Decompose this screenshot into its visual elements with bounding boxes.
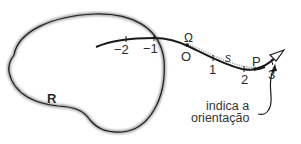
tick-label-neg1: −1 bbox=[143, 41, 158, 56]
diagram-canvas: R −2 −1 O 1 2 3 Ω s P indica a orientaçã… bbox=[0, 0, 301, 144]
arc-length-s-label: s bbox=[225, 51, 231, 65]
oriented-curve: −2 −1 O 1 2 3 Ω s P bbox=[96, 31, 284, 87]
tick-label-2: 2 bbox=[241, 72, 248, 87]
point-p-label: P bbox=[252, 54, 261, 69]
region-r-label: R bbox=[47, 91, 57, 106]
annotation-pointer-arrow bbox=[258, 68, 274, 114]
region-r-shading bbox=[9, 14, 165, 132]
tick-label-neg2: −2 bbox=[114, 42, 129, 57]
arc-length-segment bbox=[188, 44, 256, 67]
annotation-line-2: orientação bbox=[191, 111, 249, 125]
orientation-annotation: indica a orientação bbox=[191, 64, 277, 125]
tick-label-1: 1 bbox=[209, 62, 216, 77]
region-r: R bbox=[9, 14, 165, 132]
omega-symbol: Ω bbox=[184, 31, 193, 45]
tick-label-origin: O bbox=[181, 49, 191, 64]
